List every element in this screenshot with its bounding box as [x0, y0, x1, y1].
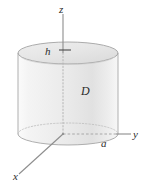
region-label-D: D: [80, 84, 90, 98]
cylinder-figure: z y x h a D: [0, 0, 146, 190]
z-axis-label: z: [58, 3, 64, 15]
x-axis-label: x: [12, 170, 18, 182]
cylinder-barrel: [18, 53, 118, 145]
y-axis-label: y: [132, 128, 138, 140]
origin-point: [62, 133, 64, 135]
cylinder-diagram-canvas: z y x h a D: [0, 0, 146, 190]
height-label: h: [45, 45, 51, 57]
cylinder-solid: [18, 42, 118, 145]
radius-label: a: [101, 137, 107, 149]
